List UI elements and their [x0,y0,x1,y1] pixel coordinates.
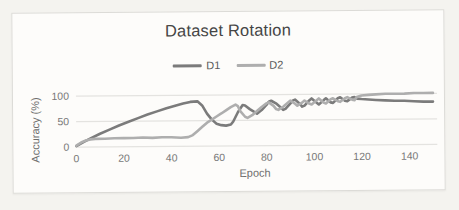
legend-swatch-d1 [173,64,202,67]
legend-label-d2: D2 [269,59,283,71]
x-tick-label: 80 [261,151,273,163]
x-tick-label: 140 [401,150,419,162]
x-tick-label: 0 [73,152,79,164]
y-axis-label: Accuracy (%) [29,97,42,162]
y-tick-label: 50 [57,115,69,127]
legend-item-d2[interactable]: D2 [236,59,283,71]
gridline-y-0 [76,144,437,147]
chart-card: 050100020406080100120140EpochAccuracy (%… [11,9,445,193]
x-tick-label: 40 [166,151,178,163]
chart-title: Dataset Rotation [12,19,443,41]
legend-label-d1: D1 [206,59,220,71]
x-tick-label: 120 [353,150,371,162]
y-tick-label: 100 [51,90,69,102]
scanned-page-background: 050100020406080100120140EpochAccuracy (%… [0,0,459,210]
y-tick-label: 0 [63,141,69,153]
x-tick-label: 100 [306,150,324,162]
x-tick-label: 60 [213,151,225,163]
legend-item-d1[interactable]: D1 [173,59,220,71]
x-tick-label: 20 [118,152,130,164]
legend-swatch-d2 [236,63,265,66]
x-axis-label: Epoch [239,167,270,179]
